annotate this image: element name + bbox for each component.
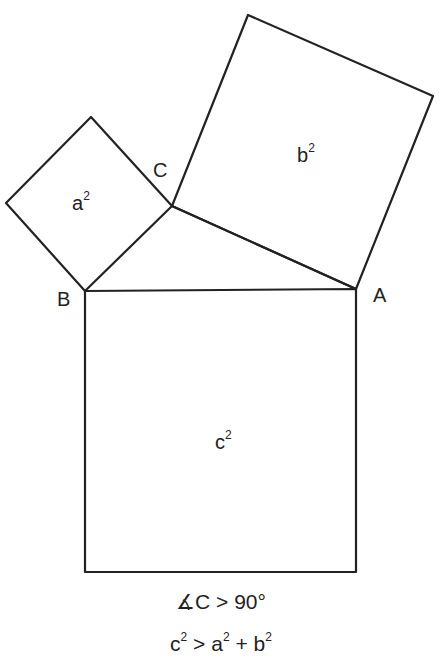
triangle-side-ca: [172, 206, 356, 289]
square-a-label: a2: [72, 193, 90, 213]
vertex-label-b: B: [57, 289, 70, 309]
vertex-label-c: C: [153, 160, 167, 180]
vertex-label-a: A: [373, 285, 386, 305]
square-b-label: b2: [297, 145, 315, 165]
angle-caption: ∡C > 90°: [0, 590, 442, 614]
pythagorean-obtuse-diagram: [0, 0, 442, 663]
square-c-label: c2: [215, 432, 232, 452]
inequality-caption: c2 > a2 + b2: [0, 632, 442, 656]
